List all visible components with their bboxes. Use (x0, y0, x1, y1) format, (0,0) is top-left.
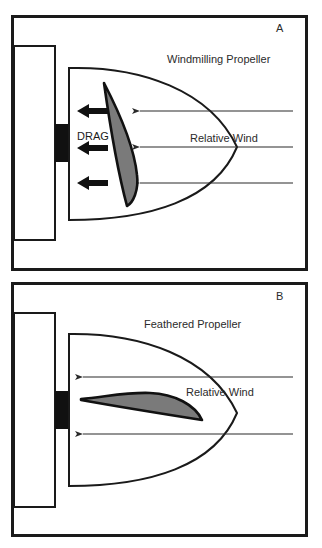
engine-body-b (14, 313, 55, 507)
hub-b (55, 391, 69, 429)
panel-b-letter: B (276, 290, 283, 302)
panel-a-letter: A (276, 22, 284, 34)
relative-wind-label-b: Relative Wind (186, 386, 254, 398)
relative-wind-label-a: Relative Wind (190, 132, 258, 144)
hub-a (55, 124, 69, 162)
engine-body-a (14, 46, 55, 240)
panel-b-title: Feathered Propeller (144, 318, 242, 330)
propeller-diagram: A Windmilling Propeller DRAG Relative Wi… (0, 0, 322, 548)
panel-a-title: Windmilling Propeller (167, 53, 271, 65)
panel-b: B Feathered Propeller Relative Wind (13, 284, 307, 536)
panel-a: A Windmilling Propeller DRAG Relative Wi… (13, 17, 307, 270)
drag-label: DRAG (77, 130, 109, 142)
